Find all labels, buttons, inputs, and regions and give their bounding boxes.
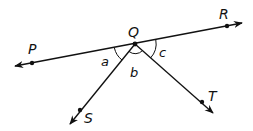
label-p: P [28, 41, 37, 57]
label-r: R [219, 6, 229, 22]
angle-arc-c [151, 40, 157, 58]
point-t [200, 100, 204, 104]
point-s [78, 108, 82, 112]
label-t: T [208, 88, 218, 104]
point-p [30, 61, 34, 65]
diagram-svg: Q P R S T a b c [0, 0, 253, 131]
label-s: S [84, 110, 93, 126]
angle-arc-b [129, 51, 143, 54]
angle-diagram: Q P R S T a b c [0, 0, 253, 131]
label-angle-b: b [130, 65, 138, 80]
label-angle-a: a [101, 54, 109, 69]
point-r [225, 24, 229, 28]
point-q [133, 42, 138, 47]
label-angle-c: c [159, 45, 166, 60]
angle-arc-a [114, 48, 122, 60]
label-q: Q [128, 24, 139, 40]
